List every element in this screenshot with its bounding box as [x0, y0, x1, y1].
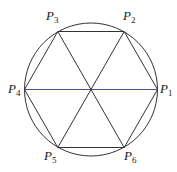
- edge-P3-P4: [25, 32, 58, 90]
- hexagon-diagram: P1P2P3P4P5P6: [0, 0, 177, 172]
- hexagon-diagonals: [25, 32, 158, 148]
- edge-P6-P1: [124, 90, 157, 148]
- edge-P1-P2: [124, 32, 157, 90]
- label-P3: P3: [45, 8, 59, 25]
- label-P1: P1: [159, 81, 172, 98]
- label-P6: P6: [123, 148, 137, 165]
- label-P5: P5: [43, 148, 57, 165]
- label-P4: P4: [7, 81, 21, 98]
- edge-P4-P5: [25, 90, 58, 148]
- label-P2: P2: [122, 8, 135, 25]
